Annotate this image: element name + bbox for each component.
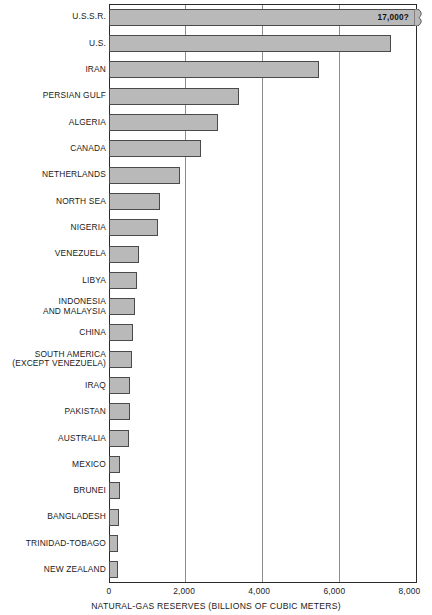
x-axis-ticks: 02,0004,0006,0008,000 — [0, 586, 432, 600]
bar[interactable] — [109, 324, 133, 341]
bar[interactable] — [109, 246, 139, 263]
category-label: MEXICO — [2, 460, 106, 469]
bar-container — [109, 346, 132, 372]
bar-container — [109, 504, 119, 530]
bar[interactable] — [109, 509, 119, 526]
category-label: VENEZUELA — [2, 249, 106, 258]
bar-row: LIBYA — [0, 267, 432, 293]
bar[interactable] — [109, 193, 160, 210]
bar[interactable] — [109, 377, 130, 394]
category-label: LIBYA — [2, 276, 106, 285]
x-tick-label-8000: 8,000 — [399, 586, 421, 596]
bar-container — [109, 451, 120, 477]
bar[interactable] — [109, 482, 120, 499]
category-label: PERSIAN GULF — [2, 91, 106, 100]
category-label: NIGERIA — [2, 223, 106, 232]
bar-container — [109, 30, 391, 56]
bar-container — [109, 530, 118, 556]
bar-container — [109, 320, 133, 346]
x-axis-label: NATURAL-GAS RESERVES (BILLIONS OF CUBIC … — [0, 601, 432, 611]
bar[interactable] — [109, 456, 120, 473]
bar-row: U.S. — [0, 30, 432, 56]
natural-gas-reserves-bar-chart: U.S.S.R.17,000?U.S.IRANPERSIAN GULFALGER… — [0, 0, 432, 615]
bar-container — [109, 83, 239, 109]
category-label: BANGLADESH — [2, 512, 106, 521]
bar-container — [109, 425, 129, 451]
bar-container — [109, 57, 319, 83]
bar[interactable] — [109, 88, 239, 105]
bar-row: BRUNEI — [0, 478, 432, 504]
bar[interactable]: 17,000? — [109, 9, 415, 26]
bar-row: CANADA — [0, 136, 432, 162]
bar-container — [109, 267, 137, 293]
bar-row: U.S.S.R.17,000? — [0, 4, 432, 30]
bar-row: PAKISTAN — [0, 399, 432, 425]
category-label: PAKISTAN — [2, 407, 106, 416]
category-label: SOUTH AMERICA (EXCEPT VENEZUELA) — [2, 350, 106, 369]
bar-row: AUSTRALIA — [0, 425, 432, 451]
bar-break-cap-icon — [414, 9, 424, 26]
bar[interactable] — [109, 61, 319, 78]
bar[interactable] — [109, 140, 201, 157]
bar-row: BANGLADESH — [0, 504, 432, 530]
category-label: AUSTRALIA — [2, 434, 106, 443]
bar-container — [109, 478, 120, 504]
x-tick-label-4000: 4,000 — [248, 586, 270, 596]
bar-row: NORTH SEA — [0, 188, 432, 214]
category-label: ALGERIA — [2, 118, 106, 127]
category-label: CANADA — [2, 144, 106, 153]
bar-rows: U.S.S.R.17,000?U.S.IRANPERSIAN GULFALGER… — [0, 4, 432, 583]
category-label: NEW ZEALAND — [2, 565, 106, 574]
category-label: INDONESIA AND MALAYSIA — [2, 297, 106, 316]
bar-row: IRAQ — [0, 372, 432, 398]
bar-row: NEW ZEALAND — [0, 557, 432, 583]
bar-container — [109, 162, 180, 188]
bar-container — [109, 136, 201, 162]
category-label: BRUNEI — [2, 486, 106, 495]
bar-container — [109, 215, 158, 241]
bar[interactable] — [109, 403, 130, 420]
x-tick-label-2000: 2,000 — [173, 586, 195, 596]
bar[interactable] — [109, 167, 180, 184]
bar-container — [109, 399, 130, 425]
bar[interactable] — [109, 351, 132, 368]
bar[interactable] — [109, 114, 218, 131]
bar-row: PERSIAN GULF — [0, 83, 432, 109]
bar[interactable] — [109, 219, 158, 236]
bar-row: ALGERIA — [0, 109, 432, 135]
x-tick-label-0: 0 — [107, 586, 112, 596]
bar-container — [109, 241, 139, 267]
bar-value-annotation: 17,000? — [378, 13, 409, 22]
bar-row: MEXICO — [0, 451, 432, 477]
category-label: NORTH SEA — [2, 197, 106, 206]
category-label: IRAN — [2, 65, 106, 74]
category-label: TRINIDAD-TOBAGO — [2, 539, 106, 548]
bar[interactable] — [109, 430, 129, 447]
bar[interactable] — [109, 272, 137, 289]
bar-row: NETHERLANDS — [0, 162, 432, 188]
bar-row: IRAN — [0, 57, 432, 83]
bar-row: SOUTH AMERICA (EXCEPT VENEZUELA) — [0, 346, 432, 372]
bar-container: 17,000? — [109, 4, 415, 30]
bar-container — [109, 294, 135, 320]
bar-container — [109, 557, 118, 583]
bar-container — [109, 109, 218, 135]
category-label: U.S. — [2, 39, 106, 48]
bar-row: NIGERIA — [0, 215, 432, 241]
x-tick-label-6000: 6,000 — [323, 586, 345, 596]
bar[interactable] — [109, 535, 118, 552]
category-label: U.S.S.R. — [2, 12, 106, 21]
category-label: CHINA — [2, 328, 106, 337]
bar-container — [109, 372, 130, 398]
bar-row: CHINA — [0, 320, 432, 346]
bar-row: INDONESIA AND MALAYSIA — [0, 294, 432, 320]
category-label: NETHERLANDS — [2, 170, 106, 179]
bar[interactable] — [109, 298, 135, 315]
bar-row: VENEZUELA — [0, 241, 432, 267]
bar[interactable] — [109, 35, 391, 52]
category-label: IRAQ — [2, 381, 106, 390]
bar[interactable] — [109, 561, 118, 578]
bar-row: TRINIDAD-TOBAGO — [0, 530, 432, 556]
bar-container — [109, 188, 160, 214]
